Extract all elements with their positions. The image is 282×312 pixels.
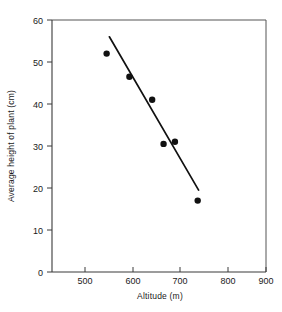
plot-frame (52, 20, 266, 272)
x-tick-label-900: 900 (258, 276, 273, 286)
x-tick-label-800: 800 (220, 276, 235, 286)
x-tick-label-600: 600 (125, 276, 140, 286)
x-tick-label-700: 700 (172, 276, 187, 286)
x-axis-tick-labels: 500 600 700 800 900 (77, 276, 273, 286)
data-points-group (103, 50, 200, 203)
y-tick-label-50: 50 (33, 58, 43, 68)
y-tick-label-30: 30 (33, 142, 43, 152)
chart-canvas: 60 50 40 30 20 10 0 500 600 700 800 900 … (0, 0, 282, 312)
data-point (103, 50, 109, 56)
y-tick-label-20: 20 (33, 184, 43, 194)
y-tick-label-40: 40 (33, 100, 43, 110)
data-point (126, 74, 132, 80)
x-axis-ticks (85, 267, 266, 272)
data-point (149, 97, 155, 103)
data-point (195, 197, 201, 203)
x-axis-title: Altitude (m) (137, 291, 183, 301)
data-point (172, 139, 178, 145)
data-point (160, 141, 166, 147)
y-axis-tick-labels: 60 50 40 30 20 10 0 (33, 16, 43, 278)
y-tick-label-10: 10 (33, 226, 43, 236)
y-axis-title: Average height of plant (cm) (6, 90, 16, 202)
x-tick-label-500: 500 (77, 276, 92, 286)
y-tick-label-0: 0 (38, 268, 43, 278)
y-tick-label-60: 60 (33, 16, 43, 26)
y-axis-ticks (47, 20, 52, 272)
scatter-plot-figure: 60 50 40 30 20 10 0 500 600 700 800 900 … (0, 0, 282, 312)
trend-line (109, 37, 198, 190)
